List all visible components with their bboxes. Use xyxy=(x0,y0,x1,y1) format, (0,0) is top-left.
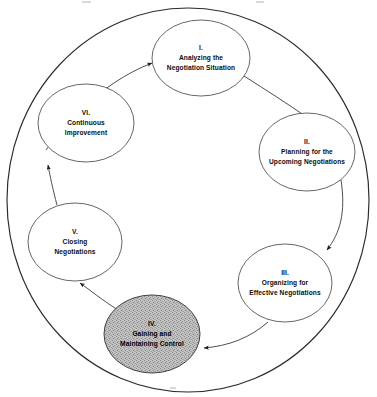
stage-i-line2: Negotiation Situation xyxy=(167,64,235,72)
stage-i-line1: Analyzing the xyxy=(179,54,223,62)
stage-ii-line2: Upcoming Negotiations xyxy=(269,158,345,166)
negotiation-cycle-diagram: I. Analyzing the Negotiation Situation I… xyxy=(0,0,377,397)
stage-iv-line1: Gaining and xyxy=(132,330,171,338)
arrow-i-to-ii xyxy=(244,76,308,118)
stage-iii-line2: Effective Negotiations xyxy=(249,289,321,297)
stage-ii-numeral: II. xyxy=(304,138,310,145)
stage-node-ii[interactable]: II. Planning for the Upcoming Negotiatio… xyxy=(259,113,355,191)
arrow-v-to-vi xyxy=(48,165,57,205)
stage-node-v[interactable]: V. Closing Negotiations xyxy=(28,203,122,281)
stage-i-numeral: I. xyxy=(199,44,203,51)
stage-iii-line1: Organizing for xyxy=(262,279,309,287)
stage-vi-line1: Continuous xyxy=(67,119,105,126)
stage-vi-numeral: VI. xyxy=(82,109,90,116)
stage-node-iii[interactable]: III. Organizing for Effective Negotiatio… xyxy=(238,244,332,322)
stage-node-iv[interactable]: IV. Gaining and Maintaining Control xyxy=(104,295,200,373)
stage-v-line1: Closing xyxy=(63,238,88,246)
stage-iv-line2: Maintaining Control xyxy=(120,340,184,348)
stage-vi-line2: Improvement xyxy=(65,129,108,137)
stage-ii-line1: Planning for the xyxy=(281,148,333,156)
stage-iii-numeral: III. xyxy=(281,269,289,276)
stage-v-numeral: V. xyxy=(72,228,78,235)
stage-node-i[interactable]: I. Analyzing the Negotiation Situation xyxy=(152,20,250,96)
arrow-iii-to-iv xyxy=(204,322,268,348)
stage-v-line2: Negotiations xyxy=(54,248,95,256)
arrow-iv-to-v xyxy=(80,283,118,310)
stage-iv-numeral: IV. xyxy=(148,320,156,327)
arrow-ii-to-iii xyxy=(327,180,343,250)
diagram-canvas: I. Analyzing the Negotiation Situation I… xyxy=(0,0,377,397)
stage-node-vi[interactable]: VI. Continuous Improvement xyxy=(38,84,134,162)
